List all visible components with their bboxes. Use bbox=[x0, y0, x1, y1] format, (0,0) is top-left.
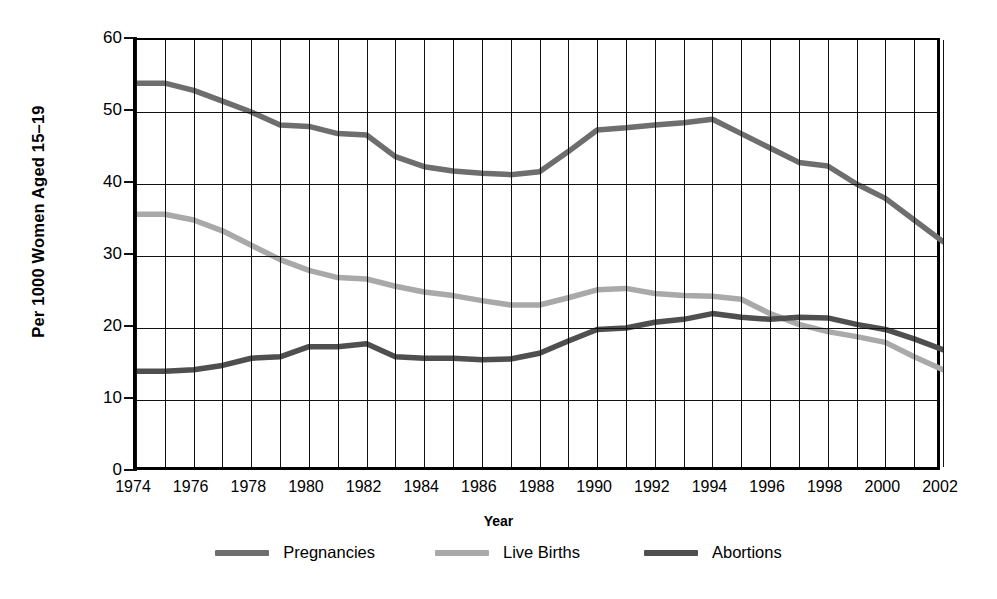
gridline-horizontal bbox=[136, 256, 937, 257]
x-tick-label: 1974 bbox=[103, 478, 163, 496]
gridline-vertical bbox=[222, 40, 223, 467]
legend-label-pregnancies: Pregnancies bbox=[283, 543, 375, 562]
x-tick-label: 2000 bbox=[852, 478, 912, 496]
gridline-vertical bbox=[511, 40, 512, 467]
gridline-vertical bbox=[367, 40, 368, 467]
gridline-vertical bbox=[770, 40, 771, 467]
gridline-vertical bbox=[914, 40, 915, 467]
x-tick-label: 1996 bbox=[737, 478, 797, 496]
gridline-vertical bbox=[626, 40, 627, 467]
gridline-vertical bbox=[453, 40, 454, 467]
legend-label-live-births: Live Births bbox=[503, 543, 580, 562]
legend-swatch-abortions bbox=[644, 550, 698, 556]
y-tick-label: 50 bbox=[78, 101, 122, 118]
plot-area bbox=[133, 38, 940, 470]
gridline-vertical bbox=[885, 40, 886, 467]
gridline-vertical bbox=[828, 40, 829, 467]
gridline-vertical bbox=[799, 40, 800, 467]
gridline-vertical bbox=[684, 40, 685, 467]
x-tick-label: 1998 bbox=[795, 478, 855, 496]
y-axis-title: Per 1000 Women Aged 15–19 bbox=[29, 12, 48, 432]
gridline-vertical bbox=[857, 40, 858, 467]
y-tick-label: 0 bbox=[78, 461, 122, 478]
legend-swatch-pregnancies bbox=[215, 550, 269, 556]
gridline-vertical bbox=[540, 40, 541, 467]
gridline-vertical bbox=[741, 40, 742, 467]
gridline-vertical bbox=[280, 40, 281, 467]
gridline-vertical bbox=[395, 40, 396, 467]
gridline-horizontal bbox=[136, 328, 937, 329]
y-tick-label: 10 bbox=[78, 389, 122, 406]
y-tick-label: 60 bbox=[78, 29, 122, 46]
x-tick-label: 1992 bbox=[622, 478, 682, 496]
gridline-vertical bbox=[568, 40, 569, 467]
gridline-vertical bbox=[309, 40, 310, 467]
chart-legend: Pregnancies Live Births Abortions bbox=[0, 543, 997, 562]
x-tick-label: 1988 bbox=[507, 478, 567, 496]
x-tick-label: 1978 bbox=[218, 478, 278, 496]
legend-item-live-births: Live Births bbox=[435, 543, 580, 562]
gridline-horizontal bbox=[136, 112, 937, 113]
x-tick-label: 1984 bbox=[391, 478, 451, 496]
y-tick-label: 20 bbox=[78, 317, 122, 334]
x-tick-label: 1976 bbox=[161, 478, 221, 496]
y-tick-label: 40 bbox=[78, 173, 122, 190]
x-tick-label: 1990 bbox=[564, 478, 624, 496]
gridline-vertical bbox=[597, 40, 598, 467]
x-tick-label: 2002 bbox=[910, 478, 970, 496]
legend-swatch-live-births bbox=[435, 550, 489, 556]
gridline-vertical bbox=[943, 40, 944, 467]
legend-item-abortions: Abortions bbox=[644, 543, 782, 562]
gridline-horizontal bbox=[136, 184, 937, 185]
legend-label-abortions: Abortions bbox=[712, 543, 782, 562]
gridline-vertical bbox=[136, 40, 137, 467]
x-axis-title: Year bbox=[0, 513, 997, 529]
gridline-horizontal bbox=[136, 400, 937, 401]
gridline-vertical bbox=[338, 40, 339, 467]
x-tick-label: 1994 bbox=[679, 478, 739, 496]
chart-page: Per 1000 Women Aged 15–19 6050403020100 … bbox=[0, 0, 997, 599]
gridline-vertical bbox=[655, 40, 656, 467]
gridline-vertical bbox=[251, 40, 252, 467]
x-tick-label: 1980 bbox=[276, 478, 336, 496]
gridline-vertical bbox=[482, 40, 483, 467]
gridline-vertical bbox=[194, 40, 195, 467]
gridline-vertical bbox=[424, 40, 425, 467]
gridline-vertical bbox=[712, 40, 713, 467]
x-tick-label: 1982 bbox=[334, 478, 394, 496]
legend-item-pregnancies: Pregnancies bbox=[215, 543, 375, 562]
x-tick-label: 1986 bbox=[449, 478, 509, 496]
gridline-vertical bbox=[165, 40, 166, 467]
y-tick-label: 30 bbox=[78, 245, 122, 262]
